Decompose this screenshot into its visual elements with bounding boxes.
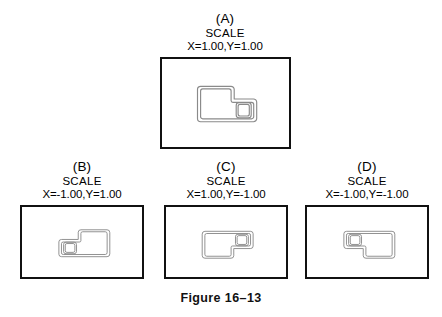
gasket-outline-b	[22, 207, 144, 279]
gasket-outline-d	[307, 207, 429, 279]
panel-a-scale-label: SCALE	[145, 27, 305, 39]
panel-d: (D) SCALE X=-1.00,Y=-1.00	[291, 160, 442, 279]
panel-c-scale-values: X=1.00,Y=-1.00	[150, 188, 302, 200]
panel-d-scale-values: X=-1.00,Y=-1.00	[291, 188, 442, 200]
panel-b-caption: (B) SCALE X=-1.00,Y=1.00	[6, 160, 158, 201]
panel-c-drawing-frame	[164, 205, 288, 279]
panel-a-scale-values: X=1.00,Y=1.00	[145, 40, 305, 52]
panel-d-caption: (D) SCALE X=-1.00,Y=-1.00	[291, 160, 442, 201]
panel-a-caption: (A) SCALE X=1.00,Y=1.00	[145, 12, 305, 53]
panel-a: (A) SCALE X=1.00,Y=1.00	[145, 12, 305, 149]
figure-16-13: (A) SCALE X=1.00,Y=1.00 (B)	[0, 0, 442, 317]
panel-d-drawing-frame	[305, 205, 429, 279]
panel-b-letter: (B)	[6, 160, 158, 174]
figure-caption: Figure 16–13	[0, 291, 442, 305]
panel-d-scale-label: SCALE	[291, 175, 442, 187]
panel-c-caption: (C) SCALE X=1.00,Y=-1.00	[150, 160, 302, 201]
gasket-outline-a	[162, 59, 291, 149]
panel-b: (B) SCALE X=-1.00,Y=1.00	[6, 160, 158, 279]
panel-b-drawing-frame	[20, 205, 144, 279]
panel-c-letter: (C)	[150, 160, 302, 174]
panel-d-letter: (D)	[291, 160, 442, 174]
panel-a-drawing-frame	[160, 57, 291, 149]
panel-b-scale-values: X=-1.00,Y=1.00	[6, 188, 158, 200]
panel-c: (C) SCALE X=1.00,Y=-1.00	[150, 160, 302, 279]
panel-b-scale-label: SCALE	[6, 175, 158, 187]
panel-c-scale-label: SCALE	[150, 175, 302, 187]
panel-a-letter: (A)	[145, 12, 305, 26]
gasket-outline-c	[166, 207, 288, 279]
